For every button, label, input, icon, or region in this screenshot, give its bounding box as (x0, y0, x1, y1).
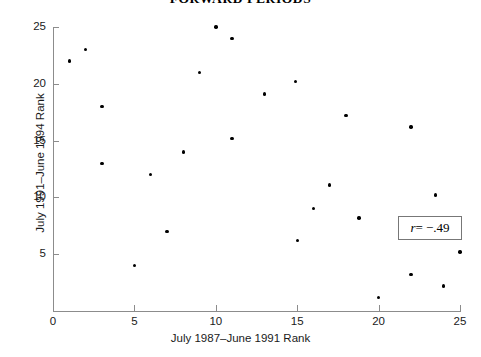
data-point (312, 207, 315, 210)
y-tick-mark (54, 84, 59, 85)
data-point (133, 264, 136, 267)
y-tick-mark (54, 141, 59, 142)
x-axis-label: July 1987–June 1991 Rank (0, 332, 481, 344)
data-point (377, 296, 380, 299)
y-tick-mark (54, 254, 59, 255)
data-point (442, 284, 445, 287)
data-point (357, 216, 360, 219)
x-tick-mark (216, 305, 217, 311)
x-tick-label: 15 (277, 316, 317, 328)
data-point (328, 183, 331, 186)
y-tick-mark (54, 27, 59, 28)
data-point (165, 230, 168, 233)
plot-area: 510152025 0510152025 July 1991–June 1994… (0, 0, 481, 357)
data-point (230, 137, 233, 140)
x-tick-mark (297, 305, 298, 311)
data-point (409, 273, 412, 276)
data-point (100, 162, 103, 165)
correlation-value: = −.49 (415, 220, 449, 236)
data-point (296, 239, 299, 242)
correlation-annotation: r = −.49 (398, 216, 462, 240)
y-tick-mark (54, 197, 59, 198)
x-tick-label: 20 (359, 316, 399, 328)
data-point (344, 114, 347, 117)
x-tick-mark (460, 305, 461, 311)
data-point (409, 125, 412, 128)
x-tick-label: 10 (196, 316, 236, 328)
data-point (263, 92, 266, 95)
data-point (68, 59, 71, 62)
x-tick-label: 5 (114, 316, 154, 328)
x-tick-mark (134, 305, 135, 311)
y-axis-spine (53, 27, 54, 312)
data-point (100, 105, 103, 108)
data-point (84, 48, 87, 51)
x-tick-label: 25 (440, 316, 480, 328)
data-point (294, 80, 297, 83)
x-tick-mark (379, 305, 380, 311)
data-point (434, 193, 437, 196)
x-axis-spine (53, 311, 461, 312)
data-point (214, 25, 217, 28)
x-tick-label: 0 (33, 316, 73, 328)
x-tick-mark (53, 305, 54, 311)
data-point (149, 173, 152, 176)
data-point (230, 37, 233, 40)
data-point (182, 150, 185, 153)
y-axis-label: July 1991–June 1994 Rank (34, 43, 46, 283)
y-tick-label: 25 (6, 21, 46, 33)
data-point (198, 71, 201, 74)
scatter-plot-figure: FORWARD PERIODS 510152025 0510152025 Jul… (0, 0, 481, 357)
data-point (458, 250, 461, 253)
